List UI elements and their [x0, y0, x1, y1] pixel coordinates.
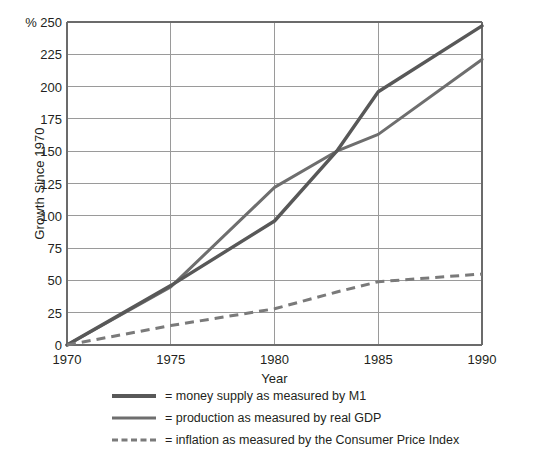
x-tick-1985: 1985 — [364, 352, 393, 367]
chart-legend: = money supply as measured by M1 = produ… — [112, 385, 542, 451]
legend-swatch-m1-icon — [112, 390, 156, 402]
x-tick-1975: 1975 — [156, 352, 185, 367]
legend-label-m1: = money supply as measured by M1 — [165, 389, 366, 403]
x-tick-1980: 1980 — [260, 352, 289, 367]
legend-label-cpi: = inflation as measured by the Consumer … — [165, 433, 459, 447]
legend-item-gdp: = production as measured by real GDP — [112, 407, 542, 429]
legend-label-gdp: = production as measured by real GDP — [165, 411, 381, 425]
growth-since-1970-chart: Growth Since 1970 % 250 225 200 175 150 … — [0, 0, 555, 454]
legend-swatch-cpi-icon — [112, 434, 156, 446]
x-tick-1970: 1970 — [53, 352, 82, 367]
legend-swatch-gdp-icon — [112, 412, 156, 424]
legend-item-m1: = money supply as measured by M1 — [112, 385, 542, 407]
legend-item-cpi: = inflation as measured by the Consumer … — [112, 429, 542, 451]
x-tick-1990: 1990 — [468, 352, 497, 367]
x-axis-title: Year — [67, 371, 482, 386]
